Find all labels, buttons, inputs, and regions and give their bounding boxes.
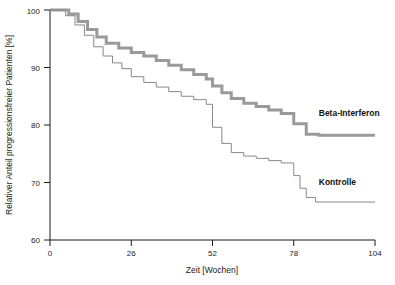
- y-tick-label-90: 90: [31, 64, 40, 73]
- chart-svg: 60 70 80 90 100 0 26 52 78 104 Zeit [Woc…: [0, 0, 395, 285]
- series-lines: [50, 10, 375, 202]
- survival-curve-chart: 60 70 80 90 100 0 26 52 78 104 Zeit [Woc…: [0, 0, 395, 285]
- y-tick-label-60: 60: [31, 236, 40, 245]
- x-tick-labels: 0 26 52 78 104: [48, 249, 382, 258]
- x-axis-title: Zeit [Wochen]: [186, 265, 238, 275]
- y-tick-label-70: 70: [31, 179, 40, 188]
- series-label-beta-interferon: Beta-Interferon: [319, 108, 380, 118]
- y-tick-label-100: 100: [27, 7, 41, 16]
- y-axis-title: Relativer Anteil progressionsfreier Pati…: [4, 35, 14, 215]
- x-tick-label-52: 52: [208, 249, 217, 258]
- x-tick-label-104: 104: [368, 249, 382, 258]
- x-tick-label-78: 78: [289, 249, 298, 258]
- series-label-kontrolle: Kontrolle: [319, 177, 357, 187]
- y-tick-label-80: 80: [31, 121, 40, 130]
- x-tick-label-26: 26: [127, 249, 136, 258]
- y-tick-labels: 60 70 80 90 100: [27, 7, 41, 246]
- series-line-kontrolle: [50, 10, 375, 202]
- x-tick-label-0: 0: [48, 249, 53, 258]
- series-labels: Beta-Interferon Kontrolle: [319, 108, 380, 187]
